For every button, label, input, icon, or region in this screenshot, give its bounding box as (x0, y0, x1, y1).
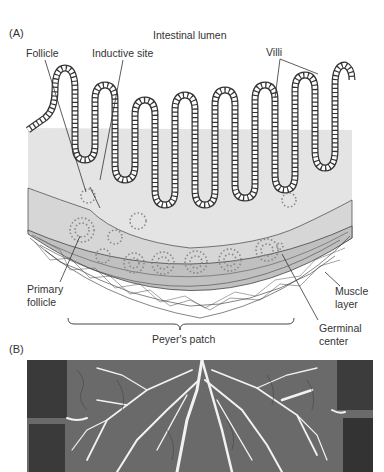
micrograph-illustration (27, 360, 373, 472)
histology-micrograph (27, 360, 373, 472)
peyers-patch-bracket (68, 318, 294, 330)
peyers-patch-diagram (0, 0, 384, 360)
